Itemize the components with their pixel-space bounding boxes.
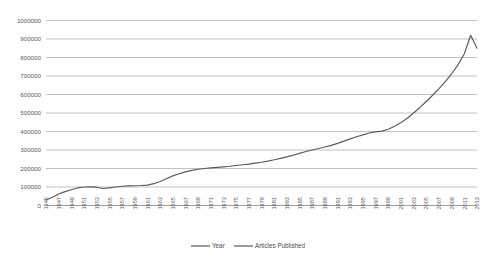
- y-axis-tick-labels: 0100000200000300000400000500000600000700…: [17, 17, 42, 209]
- x-axis-tick-label: 1973: [221, 197, 227, 209]
- x-axis-tick-label: 1983: [284, 197, 290, 209]
- x-axis-tick-label: 2003: [411, 197, 417, 209]
- x-axis-tick-label: 2007: [436, 197, 442, 209]
- x-axis-tick-label: 1951: [81, 197, 87, 209]
- chart-container: 0100000200000300000400000500000600000700…: [0, 0, 494, 261]
- x-axis-tick-label: 1971: [208, 197, 214, 209]
- y-axis-tick-label: 600000: [20, 91, 41, 98]
- x-axis-tick-labels: 1945194719491951195319551957195919611963…: [43, 197, 480, 209]
- x-axis-tick-label: 1993: [347, 197, 353, 209]
- x-axis-tick-label: 1957: [119, 197, 125, 209]
- data-series-group: [46, 35, 477, 200]
- x-axis-tick-label: 1997: [373, 197, 379, 209]
- legend-label-articles: Articles Published: [255, 242, 306, 249]
- y-axis-tick-label: 400000: [20, 128, 41, 135]
- x-axis-tick-label: 2011: [462, 197, 468, 209]
- x-axis-tick-label: 1955: [107, 197, 113, 209]
- x-axis-tick-label: 2001: [398, 197, 404, 209]
- x-axis-tick-label: 1965: [170, 197, 176, 209]
- x-axis-tick-label: 1975: [233, 197, 239, 209]
- y-axis-tick-label: 100000: [20, 183, 41, 190]
- x-axis-tick-label: 2009: [449, 197, 455, 209]
- y-axis-tick-label: 1000000: [17, 17, 42, 24]
- x-axis-tick-label: 1991: [335, 197, 341, 209]
- x-axis-tick-label: 1961: [145, 197, 151, 209]
- x-axis-tick-label: 1967: [183, 197, 189, 209]
- x-axis-tick-label: 1985: [297, 197, 303, 209]
- x-axis-tick-label: 1947: [56, 197, 62, 209]
- x-axis-tick-label: 1953: [94, 197, 100, 209]
- plot-area: 0100000200000300000400000500000600000700…: [0, 0, 494, 261]
- y-axis-tick-label: 900000: [20, 35, 41, 42]
- data-line-articles-published: [46, 35, 477, 200]
- x-axis-tick-label: 1969: [195, 197, 201, 209]
- gridlines-group: [46, 21, 477, 206]
- y-axis-tick-label: 700000: [20, 72, 41, 79]
- line-chart-svg: 0100000200000300000400000500000600000700…: [0, 0, 494, 261]
- x-axis-tick-label: 1979: [259, 197, 265, 209]
- x-axis-tick-label: 1999: [385, 197, 391, 209]
- x-axis-tick-label: 1995: [360, 197, 366, 209]
- x-axis-tick-label: 1977: [246, 197, 252, 209]
- x-axis-tick-label: 1981: [271, 197, 277, 209]
- x-axis-tick-label: 2013: [474, 197, 480, 209]
- x-axis-tick-label: 1949: [69, 197, 75, 209]
- y-axis-tick-label: 800000: [20, 54, 41, 61]
- y-axis-tick-label: 500000: [20, 109, 41, 116]
- x-axis-tick-label: 1989: [322, 197, 328, 209]
- y-axis-tick-label: 0: [38, 202, 42, 209]
- y-axis-tick-label: 200000: [20, 165, 41, 172]
- x-axis-tick-label: 2005: [423, 197, 429, 209]
- x-axis-tick-label: 1987: [309, 197, 315, 209]
- x-axis-tick-label: 1959: [132, 197, 138, 209]
- legend-label-year: Year: [212, 242, 225, 249]
- x-axis-tick-label: 1963: [157, 197, 163, 209]
- y-axis-tick-label: 300000: [20, 146, 41, 153]
- chart-legend: Year Articles Published: [191, 242, 306, 249]
